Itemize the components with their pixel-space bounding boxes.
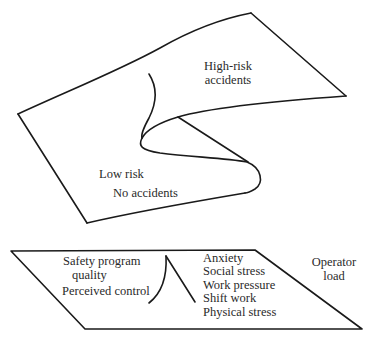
high-risk-label: High-risk <box>204 59 253 73</box>
safety-program-label: Safety program <box>63 254 141 268</box>
cusp-left-branch <box>149 256 166 303</box>
factor-physical-stress: Physical stress <box>203 305 276 319</box>
load-label: load <box>323 269 345 283</box>
factor-work-pressure: Work pressure <box>203 278 276 292</box>
quality-label: quality <box>72 268 107 282</box>
perceived-control-label: Perceived control <box>62 284 150 298</box>
cusp-catastrophe-diagram: High-risk accidents Low risk No accident… <box>0 0 370 343</box>
fold-lower-curve <box>140 138 260 193</box>
behavior-surface: High-risk accidents Low risk No accident… <box>18 13 346 223</box>
factor-shift-work: Shift work <box>203 291 257 305</box>
high-risk-accidents-label: accidents <box>205 73 252 87</box>
low-risk-label: Low risk <box>99 167 145 181</box>
fold-upper-edge <box>142 96 346 138</box>
cusp-right-branch <box>166 256 195 302</box>
control-plane: Safety program quality Perceived control… <box>11 250 362 329</box>
factor-social-stress: Social stress <box>203 264 265 278</box>
operator-label: Operator <box>312 255 357 269</box>
surface-left-edge <box>18 114 87 223</box>
no-accidents-label: No accidents <box>113 186 178 200</box>
surface-right-edge <box>251 13 346 96</box>
factor-anxiety: Anxiety <box>203 251 244 265</box>
